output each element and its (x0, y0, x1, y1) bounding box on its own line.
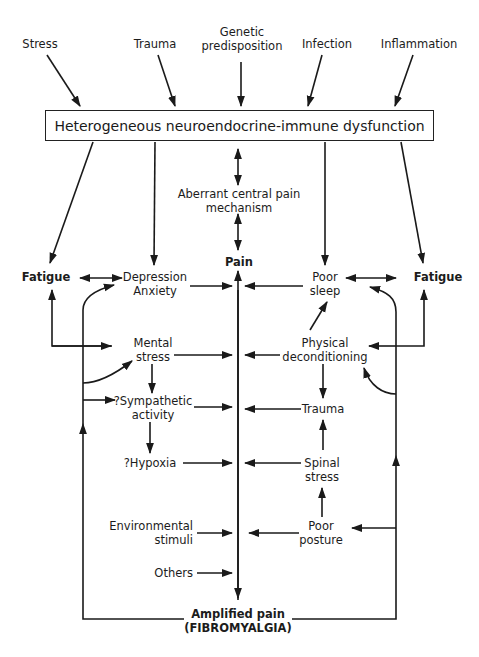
sympathetic-label: ?Sympathetic (114, 394, 193, 408)
loop-left-to-depression (83, 285, 114, 310)
amplified-pain-label: Amplified pain (184, 607, 292, 621)
activity-label: activity (114, 408, 193, 422)
sympathetic-activity-node: ?Sympathetic activity (114, 394, 193, 422)
mental-stress-node: Mental stress (133, 336, 172, 364)
stimuli-label: stimuli (109, 533, 193, 547)
diagram-connectors (0, 0, 479, 657)
trigger-trauma: Trauma (134, 37, 177, 51)
environmental-label: Environmental (109, 519, 193, 533)
depression-label: Depression (123, 270, 187, 284)
arrow-stress-to-box (47, 55, 80, 106)
deconditioning-label: deconditioning (282, 350, 367, 364)
arrow-mental-to-fatigue-left (52, 290, 112, 346)
arrow-trauma-to-box (158, 55, 175, 106)
mental-label: Mental (133, 336, 172, 350)
genetic-line2: predisposition (202, 39, 283, 53)
spinal-stress-label: stress (304, 470, 339, 484)
physical-label: Physical (282, 336, 367, 350)
poor-posture-line1: Poor (299, 519, 343, 533)
aberrant-line2: mechanism (178, 201, 301, 215)
trigger-genetic-predisposition: Genetic predisposition (202, 25, 283, 53)
trauma-node: Trauma (302, 402, 345, 416)
spinal-label: Spinal (304, 456, 339, 470)
fatigue-right-node: Fatigue (414, 270, 463, 284)
poor-posture-node: Poor posture (299, 519, 343, 547)
amplified-pain-fibromyalgia-node: Amplified pain (FIBROMYALGIA) (184, 607, 292, 635)
poor-sleep-node: Poor sleep (310, 270, 341, 298)
aberrant-line1: Aberrant central pain (178, 187, 301, 201)
fatigue-left-node: Fatigue (22, 270, 71, 284)
arrow-physical-to-sleep (310, 302, 327, 330)
arrow-box-to-fatigue-left (50, 142, 93, 263)
pain-node: Pain (225, 255, 253, 269)
central-box-label: Heterogeneous neuroendocrine-immune dysf… (54, 118, 424, 134)
environmental-stimuli-node: Environmental stimuli (109, 519, 193, 547)
hypoxia-node: ?Hypoxia (124, 456, 177, 470)
anxiety-label: Anxiety (123, 284, 187, 298)
spinal-stress-node: Spinal stress (304, 456, 339, 484)
arrow-infection-to-box (308, 55, 322, 106)
loop-right-to-sleep (370, 287, 396, 312)
others-node: Others (154, 566, 193, 580)
arrow-box-to-fatigue-right (401, 142, 423, 263)
stress-label: stress (133, 350, 172, 364)
trigger-infection: Infection (302, 37, 352, 51)
arrow-box-to-depression (154, 142, 155, 265)
physical-deconditioning-node: Physical deconditioning (282, 336, 367, 364)
arrow-inflammation-to-box (395, 55, 413, 106)
genetic-line1: Genetic (202, 25, 283, 39)
central-dysfunction-box: Heterogeneous neuroendocrine-immune dysf… (45, 110, 434, 141)
arrow-loop-to-fatigue-right (396, 290, 424, 346)
loop-right-to-physical (364, 368, 396, 394)
poor-label: Poor (310, 270, 341, 284)
aberrant-central-pain-mechanism: Aberrant central pain mechanism (178, 187, 301, 215)
depression-anxiety-node: Depression Anxiety (123, 270, 187, 298)
fibromyalgia-label: (FIBROMYALGIA) (184, 621, 292, 635)
trigger-stress: Stress (22, 37, 57, 51)
posture-label: posture (299, 533, 343, 547)
trigger-inflammation: Inflammation (381, 37, 457, 51)
sleep-label: sleep (310, 284, 341, 298)
loop-left-to-mental (83, 361, 132, 383)
